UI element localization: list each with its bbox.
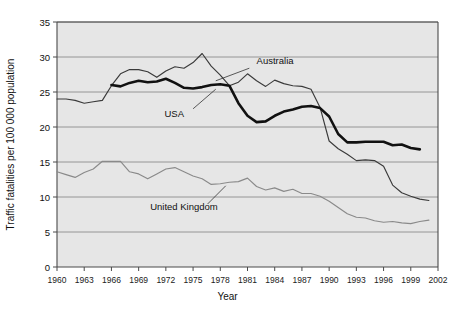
y-tick-label: 20 xyxy=(39,122,50,133)
y-tick-label: 35 xyxy=(39,17,50,28)
y-axis-title: Traffic fatalities per 100 000 populatio… xyxy=(5,59,16,231)
y-tick-label: 10 xyxy=(39,192,50,203)
plot-background xyxy=(57,22,438,267)
x-tick-label: 1975 xyxy=(184,275,203,285)
x-axis-title: Year xyxy=(217,291,238,302)
x-tick-label: 1969 xyxy=(129,275,148,285)
x-tick-label: 1978 xyxy=(211,275,230,285)
x-tick-label: 1996 xyxy=(374,275,393,285)
x-tick-label: 1966 xyxy=(102,275,121,285)
y-tick-label: 0 xyxy=(45,262,50,273)
series-label-usa: USA xyxy=(164,108,184,119)
x-tick-label: 2002 xyxy=(429,275,448,285)
x-axis-ticks: 1960196319661969197219751978198119841987… xyxy=(48,267,448,285)
x-tick-label: 1990 xyxy=(320,275,339,285)
x-tick-label: 1987 xyxy=(292,275,311,285)
line-chart-svg: 35302520151050 1960196319661969197219751… xyxy=(0,0,469,328)
x-tick-label: 1963 xyxy=(75,275,94,285)
y-tick-label: 5 xyxy=(45,227,50,238)
x-tick-label: 1993 xyxy=(347,275,366,285)
series-label-australia: Australia xyxy=(257,55,295,66)
x-tick-label: 1981 xyxy=(238,275,257,285)
x-tick-label: 1960 xyxy=(48,275,67,285)
chart-figure: 35302520151050 1960196319661969197219751… xyxy=(0,0,469,328)
y-tick-label: 25 xyxy=(39,87,50,98)
series-label-united-kingdom: United Kingdom xyxy=(150,201,218,212)
x-tick-label: 1984 xyxy=(265,275,284,285)
y-axis-ticks: 35302520151050 xyxy=(39,17,57,273)
y-tick-label: 30 xyxy=(39,52,50,63)
x-tick-label: 1972 xyxy=(156,275,175,285)
x-tick-label: 1999 xyxy=(401,275,420,285)
y-tick-label: 15 xyxy=(39,157,50,168)
